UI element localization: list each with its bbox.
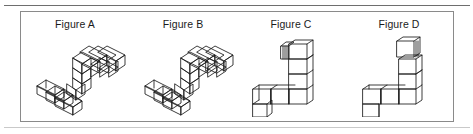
figure-art-a bbox=[21, 30, 129, 121]
figure-cell-b: Figure B bbox=[129, 12, 237, 121]
figures-panel: Figure A bbox=[20, 11, 454, 122]
l-block-chain-icon-d bbox=[353, 35, 445, 117]
z-block-chain-icon-a bbox=[23, 36, 127, 116]
figure-cell-d: Figure D bbox=[345, 12, 453, 121]
figure-art-b bbox=[129, 30, 237, 121]
figure-label-c: Figure C bbox=[270, 18, 311, 30]
figure-label-b: Figure B bbox=[163, 18, 203, 30]
figure-art-d bbox=[345, 30, 453, 121]
bottom-horizontal-rule bbox=[4, 127, 470, 128]
figure-cell-c: Figure C bbox=[237, 12, 345, 121]
figure-comparison-page: Figure A bbox=[0, 0, 473, 134]
figure-art-c bbox=[237, 30, 345, 121]
z-block-chain-icon-b bbox=[131, 36, 235, 116]
l-block-chain-icon-c bbox=[245, 35, 337, 117]
top-horizontal-rule bbox=[4, 5, 470, 6]
figure-cell-a: Figure A bbox=[21, 12, 129, 121]
figures-row: Figure A bbox=[21, 12, 453, 121]
figure-label-d: Figure D bbox=[378, 18, 419, 30]
figure-label-a: Figure A bbox=[55, 18, 95, 30]
